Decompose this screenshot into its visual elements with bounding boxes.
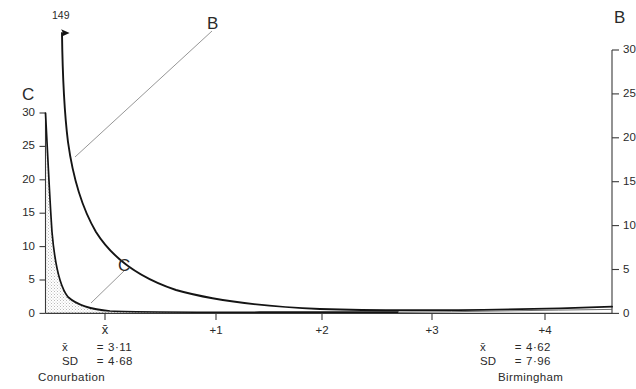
x-axis-ticks: [105, 313, 545, 320]
right-tick-5: 5: [623, 263, 629, 275]
left-tick-15: 15: [0, 206, 35, 218]
stats-birmingham: x̄ = 4·62 SD = 7·96 Birmingham: [480, 340, 563, 384]
stats-conurbation-mean-symbol: x̄: [62, 340, 92, 354]
stats-conurbation-sd-eq: =: [92, 354, 108, 368]
right-tick-15: 15: [623, 175, 636, 187]
stats-conurbation-mean-row: x̄ = 3·11: [62, 340, 133, 354]
right-tick-30: 30: [623, 43, 636, 55]
left-tick-5: 5: [0, 273, 35, 285]
stats-conurbation-sd-row: SD = 4·68: [62, 354, 133, 368]
stats-birmingham-group-name: Birmingham: [498, 370, 563, 384]
left-tick-10: 10: [0, 240, 35, 252]
stats-conurbation-sd-value: 4·68: [108, 354, 133, 368]
curve-b-tag: B: [207, 14, 218, 34]
stats-birmingham-sd-value: 7·96: [526, 354, 551, 368]
x-tick-plus3: +3: [425, 324, 438, 336]
curve-c-tag: C: [118, 256, 130, 276]
curve-c-fill: [46, 113, 399, 313]
left-tick-20: 20: [0, 173, 35, 185]
stats-conurbation-mean-eq: =: [92, 340, 108, 354]
stats-birmingham-sd-symbol: SD: [480, 354, 510, 368]
x-tick-mean: x̄: [102, 322, 109, 337]
stats-conurbation-mean-value: 3·11: [108, 340, 132, 354]
right-tick-0: 0: [623, 307, 629, 319]
chart-figure: C B 30 25 20 15 10 5 0 30 25 20 15 10 5 …: [0, 0, 636, 389]
right-tick-20: 20: [623, 131, 636, 143]
curve-b-peak-label: 149: [52, 9, 70, 21]
stats-birmingham-mean-symbol: x̄: [480, 340, 510, 354]
x-tick-plus1: +1: [209, 324, 222, 336]
stats-conurbation-group-name: Conurbation: [38, 370, 133, 384]
x-tick-plus4: +4: [538, 324, 551, 336]
right-axis-ticks: [612, 50, 619, 313]
right-axis-name: B: [614, 8, 626, 28]
stats-birmingham-mean-eq: =: [510, 340, 526, 354]
left-tick-30: 30: [0, 106, 35, 118]
curve-b-leader: [75, 31, 212, 157]
stats-birmingham-mean-value: 4·62: [526, 340, 551, 354]
left-axis-name: C: [22, 85, 35, 105]
left-tick-0: 0: [0, 307, 35, 319]
stats-birmingham-sd-row: SD = 7·96: [480, 354, 563, 368]
curve-b-line: [62, 33, 612, 310]
curve-c-line: [46, 113, 399, 312]
left-axis-ticks: [40, 113, 46, 313]
stats-birmingham-mean-row: x̄ = 4·62: [480, 340, 563, 354]
stats-conurbation-sd-symbol: SD: [62, 354, 92, 368]
stats-conurbation: x̄ = 3·11 SD = 4·68 Conurbation: [62, 340, 133, 384]
right-tick-10: 10: [623, 219, 636, 231]
stats-birmingham-sd-eq: =: [510, 354, 526, 368]
right-tick-25: 25: [623, 87, 636, 99]
x-tick-plus2: +2: [315, 324, 328, 336]
left-tick-25: 25: [0, 139, 35, 151]
